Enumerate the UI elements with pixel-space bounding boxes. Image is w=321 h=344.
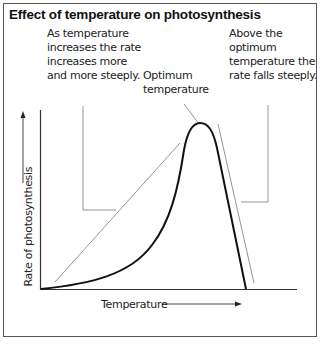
arrow-right-icon: [235, 302, 242, 307]
falling-guide-line: [218, 124, 254, 283]
rising-guide-line: [55, 143, 180, 282]
x-axis-label: Temperature: [101, 298, 167, 311]
optimum-pointer: [184, 104, 199, 124]
rate-curve: [41, 123, 246, 289]
y-axis-label: Rate of photosynthesis: [22, 127, 35, 287]
arrow-up-icon: [21, 111, 26, 118]
diagram-graphics: [0, 0, 321, 344]
rising-bracket: [83, 106, 116, 210]
falling-bracket: [241, 105, 268, 202]
